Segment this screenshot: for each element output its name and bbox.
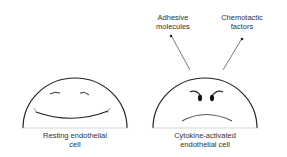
label-line: factors [214, 22, 270, 31]
label-line: Chemotactic [214, 13, 270, 22]
label-chemotactic-factors: Chemotactic factors [214, 13, 270, 31]
angry-eye-left-icon [198, 95, 202, 101]
arrowhead-chemotactic-icon [241, 38, 244, 41]
activated-cell-outline [153, 78, 257, 128]
label-line: Cytokine-activated [155, 131, 255, 140]
activated-cell [151, 78, 259, 128]
arrowhead-adhesive-icon [170, 35, 173, 38]
frown-icon [182, 115, 232, 122]
resting-eye-right-icon [80, 92, 89, 95]
angry-eye-right-icon [210, 95, 214, 101]
output-arrows [170, 35, 244, 70]
label-line: molecules [148, 22, 198, 31]
label-line: Resting endothelial [25, 131, 125, 140]
smile-dimple-left-icon [34, 108, 37, 113]
label-adhesive-molecules: Adhesive molecules [148, 13, 198, 31]
resting-eye-left-icon [50, 92, 60, 94]
label-line: cell [25, 140, 125, 149]
label-line: endothelial cell [155, 140, 255, 149]
resting-smile-icon [36, 111, 108, 118]
smile-dimple-right-icon [107, 108, 110, 113]
resting-cell-outline [23, 78, 127, 128]
label-line: Adhesive [148, 13, 198, 22]
angry-brow-right-icon [212, 91, 223, 96]
resting-cell [21, 78, 129, 128]
arrow-adhesive-molecules [172, 37, 190, 70]
label-activated-cell: Cytokine-activated endothelial cell [155, 131, 255, 149]
label-resting-cell: Resting endothelial cell [25, 131, 125, 149]
arrow-chemotactic-factors [223, 40, 241, 70]
